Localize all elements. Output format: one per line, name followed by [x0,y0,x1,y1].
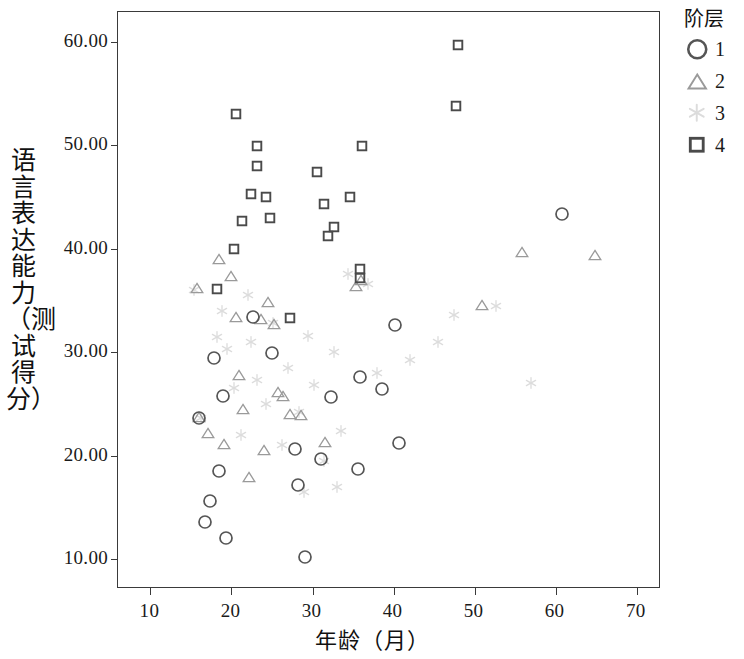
y-axis-tick [111,456,118,457]
data-point-class-4 [353,271,366,284]
data-point-class-4 [259,191,272,204]
data-point-class-1 [245,310,260,325]
legend-row-2: 2 [684,65,744,97]
square-icon [684,132,710,158]
data-point-class-1 [375,382,390,397]
data-point-class-4 [451,39,464,52]
data-point-class-1 [218,531,233,546]
y-axis-tick [111,352,118,353]
data-point-class-2 [588,248,603,262]
data-point-class-3 [371,366,384,379]
data-point-class-3 [489,299,502,312]
data-point-class-4 [355,140,368,153]
triangle-icon [684,68,710,94]
data-point-class-4 [317,198,330,211]
x-axis-tick [313,587,314,595]
data-point-class-2 [231,368,246,382]
data-point-class-1 [352,370,367,385]
scatter-plot-figure: 语言表达能力（测试得分） 10.0020.0030.0040.0050.0060… [0,0,744,659]
data-point-class-3 [301,329,314,342]
data-point-class-3 [403,354,416,367]
data-point-class-3 [525,377,538,390]
data-point-class-2 [276,389,291,403]
data-point-class-3 [260,397,273,410]
data-point-class-2 [212,252,227,266]
x-axis-tick-label: 10 [140,600,160,622]
data-point-class-3 [327,346,340,359]
data-point-class-1 [203,494,218,509]
data-point-class-1 [324,389,339,404]
data-point-class-1 [290,477,305,492]
x-axis-tick [394,587,395,595]
x-axis-tick [475,587,476,595]
x-axis-tick [231,587,232,595]
data-point-class-3 [330,480,343,493]
data-point-class-3 [432,335,445,348]
data-point-class-3 [220,343,233,356]
y-axis-title: 语言表达能力（测试得分） [6,148,40,413]
data-point-class-1 [215,388,230,403]
y-axis-tick [111,42,118,43]
data-point-class-4 [343,191,356,204]
x-axis-tick [150,587,151,595]
data-point-class-3 [448,308,461,321]
x-axis-tick-label: 40 [383,600,403,622]
data-point-class-4 [210,283,223,296]
data-point-class-4 [230,108,243,121]
data-point-class-4 [227,242,240,255]
data-point-class-4 [251,140,264,153]
data-point-class-2 [229,310,244,324]
data-point-class-2 [267,317,282,331]
x-axis-tick-label: 50 [464,600,484,622]
data-point-class-2 [200,426,215,440]
data-point-class-1 [206,351,221,366]
y-axis-tick-label: 60.00 [64,30,108,52]
x-axis-tick-label: 70 [626,600,646,622]
legend-rows: 1234 [684,33,744,161]
data-point-class-4 [250,160,263,173]
y-axis-tick-label: 20.00 [64,444,108,466]
legend-label: 3 [715,102,725,125]
data-point-class-4 [327,221,340,234]
y-axis-tick-label: 30.00 [64,340,108,362]
data-point-class-1 [211,464,226,479]
data-point-class-3 [334,424,347,437]
data-point-class-4 [311,166,324,179]
data-point-class-1 [392,436,407,451]
legend-row-1: 1 [684,33,744,65]
data-point-class-3 [235,428,248,441]
y-axis-tick-label: 50.00 [64,133,108,155]
data-point-class-1 [350,462,365,477]
data-point-class-1 [264,346,279,361]
data-point-class-2 [294,408,309,422]
x-axis-title: 年龄（月） [0,622,744,654]
legend-label: 2 [715,70,725,93]
plot-frame [117,11,660,588]
legend-label: 1 [715,38,725,61]
data-point-class-3 [250,374,263,387]
legend-row-3: 3 [684,97,744,129]
data-point-class-4 [236,214,249,227]
legend-row-4: 4 [684,129,744,161]
x-axis-tick-label: 60 [545,600,565,622]
data-point-class-1 [298,549,313,564]
data-point-class-2 [515,245,530,259]
legend-title: 阶层 [684,8,744,31]
star-icon [684,100,710,126]
data-point-class-2 [242,470,257,484]
y-axis-tick [111,249,118,250]
data-point-class-4 [283,312,296,325]
data-point-class-2 [224,269,239,283]
y-axis-tick-label: 10.00 [64,547,108,569]
circle-icon [684,36,710,62]
data-point-class-4 [449,100,462,113]
data-point-class-1 [388,318,403,333]
data-point-class-4 [263,211,276,224]
data-point-class-2 [256,443,271,457]
x-axis-tick-label: 20 [221,600,241,622]
data-point-class-3 [215,304,228,317]
data-point-class-1 [197,514,212,529]
data-point-class-2 [318,435,333,449]
data-point-class-2 [190,281,205,295]
data-point-class-1 [555,206,570,221]
